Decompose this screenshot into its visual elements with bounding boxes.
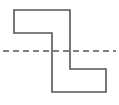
figure-container	[0, 0, 119, 105]
z-shape-diagram	[0, 0, 119, 105]
